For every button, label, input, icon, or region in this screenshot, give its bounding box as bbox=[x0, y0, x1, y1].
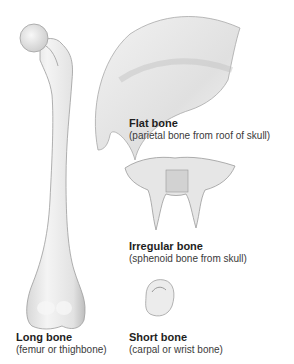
bone-illustrations bbox=[0, 0, 294, 364]
flat-bone-label: Flat bone (parietal bone from roof of sk… bbox=[129, 117, 270, 142]
short-bone-title: Short bone bbox=[129, 331, 223, 344]
long-bone-title: Long bone bbox=[16, 331, 107, 344]
short-bone-subtitle: (carpal or wrist bone) bbox=[129, 344, 223, 356]
short-bone-label: Short bone (carpal or wrist bone) bbox=[129, 331, 223, 356]
carpal-illustration bbox=[146, 280, 174, 316]
flat-bone-subtitle: (parietal bone from roof of skull) bbox=[129, 130, 270, 142]
flat-bone-title: Flat bone bbox=[129, 117, 270, 130]
sphenoid-illustration bbox=[125, 157, 235, 230]
long-bone-subtitle: (femur or thighbone) bbox=[16, 344, 107, 356]
irregular-bone-label: Irregular bone (sphenoid bone from skull… bbox=[129, 240, 247, 265]
long-bone-label: Long bone (femur or thighbone) bbox=[16, 331, 107, 356]
irregular-bone-title: Irregular bone bbox=[129, 240, 247, 253]
irregular-bone-subtitle: (sphenoid bone from skull) bbox=[129, 253, 247, 265]
femur-illustration bbox=[20, 24, 85, 329]
